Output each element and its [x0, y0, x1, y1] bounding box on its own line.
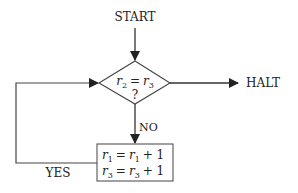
start-label: START: [114, 10, 155, 24]
yes-label: YES: [45, 166, 71, 180]
halt-label: HALT: [246, 76, 280, 90]
yes-loop-arrow: [16, 83, 98, 163]
decision-node: r2=r3 ?: [99, 61, 170, 104]
decision-question-mark: ?: [132, 88, 138, 102]
flowchart-diagram: START r2=r3 ? HALT NO r1=r1+ 1 r3=r3+ 1 …: [0, 0, 298, 193]
process-node: r1=r1+ 1 r3=r3+ 1: [97, 144, 173, 181]
no-label: NO: [139, 121, 158, 134]
